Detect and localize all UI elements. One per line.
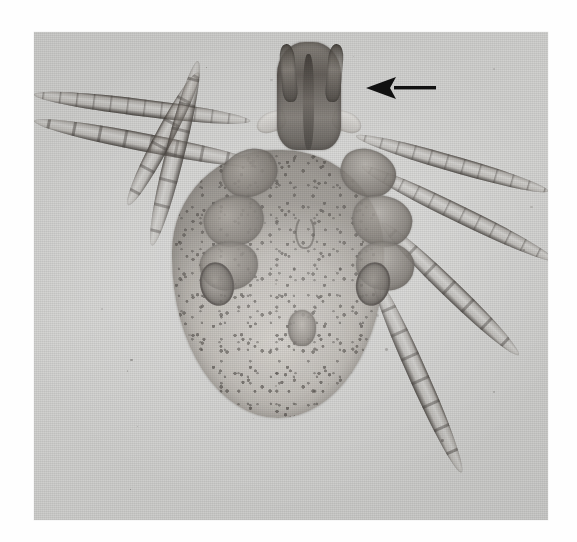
dust-speck xyxy=(312,340,313,341)
sternal-groove xyxy=(295,215,315,249)
dust-speck xyxy=(523,249,524,250)
dust-speck xyxy=(264,222,266,224)
dust-speck xyxy=(206,67,207,68)
dust-speck xyxy=(188,334,191,337)
dust-speck xyxy=(253,418,254,419)
dust-speck xyxy=(441,439,444,442)
dust-speck xyxy=(130,489,131,490)
dust-speck xyxy=(137,426,138,427)
halftone-photograph xyxy=(34,32,548,520)
hypostome xyxy=(303,54,314,150)
pointer-arrow xyxy=(366,74,436,102)
dust-speck xyxy=(130,359,133,362)
dust-speck xyxy=(353,56,354,57)
dust-speck xyxy=(101,308,103,310)
dust-speck xyxy=(376,314,379,317)
dust-speck xyxy=(428,280,430,282)
dust-speck xyxy=(493,391,495,393)
dust-speck xyxy=(270,79,273,82)
dust-speck xyxy=(493,68,495,70)
dust-speck xyxy=(235,283,236,284)
dust-speck xyxy=(127,370,128,371)
figure-root xyxy=(0,0,577,542)
dust-speck xyxy=(530,206,533,209)
dust-speck xyxy=(275,385,276,386)
dust-speck xyxy=(385,348,388,351)
